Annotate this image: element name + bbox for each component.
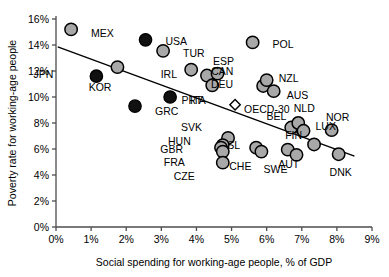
- y-tick-label: 0%: [34, 221, 49, 233]
- y-axis-title: Poverty rate for working-age people: [6, 40, 18, 206]
- data-point-ita: [164, 91, 176, 103]
- point-label-jpn: JPN: [34, 68, 54, 80]
- point-label-swe: SWE: [264, 163, 288, 175]
- x-tick-label: 3%: [154, 233, 169, 245]
- x-tick-label: 8%: [329, 233, 344, 245]
- x-tick-label: 4%: [189, 233, 204, 245]
- data-point-mex: [65, 23, 77, 35]
- point-label-prt: PRT: [181, 94, 202, 106]
- point-label-dnk: DNK: [330, 166, 352, 178]
- data-point-kor: [111, 61, 123, 73]
- point-label-gbr: GBR: [160, 143, 183, 155]
- point-label-sl: SL: [227, 139, 240, 151]
- y-tick-label: 14%: [28, 39, 49, 51]
- y-tick-label: 4%: [34, 169, 49, 181]
- x-tick-label: 0%: [48, 233, 63, 245]
- y-tick-label: 16%: [28, 13, 49, 25]
- data-point-can: [185, 63, 197, 75]
- scatter-chart: 0%2%4%6%8%10%12%14%16%0%1%2%3%4%5%6%7%8%…: [0, 0, 389, 277]
- x-axis-title: Social spending for working-age people, …: [96, 256, 332, 268]
- point-label-fin: FIN: [285, 129, 302, 141]
- point-label-nld: NLD: [294, 102, 315, 114]
- point-label-che: CHE: [229, 160, 251, 172]
- x-tick-label: 7%: [294, 233, 309, 245]
- point-label-fra: FRA: [164, 156, 185, 168]
- point-label-bel: BEL: [266, 110, 286, 122]
- data-point-usa: [139, 34, 151, 46]
- point-label-aus: AUS: [287, 89, 309, 101]
- point-label-svk: SVK: [181, 121, 202, 133]
- data-point-dnk: [332, 148, 344, 160]
- point-label-tur: TUR: [183, 47, 205, 59]
- point-label-kor: KOR: [89, 81, 112, 93]
- point-label-nzl: NZL: [279, 72, 299, 84]
- y-tick-label: 10%: [28, 91, 49, 103]
- data-point-pol: [246, 36, 258, 48]
- data-point-labels: MEXJPNKORUSATURGRCITACANIRLESPPRTDEUNZLA…: [34, 27, 352, 182]
- point-label-grc: GRC: [155, 105, 179, 117]
- point-label-usa: USA: [166, 35, 188, 47]
- x-tick-label: 2%: [119, 233, 134, 245]
- point-label-pol: POL: [273, 38, 294, 50]
- data-point-cze: [217, 156, 229, 168]
- point-label-irl: IRL: [161, 68, 178, 80]
- x-tick-label: 5%: [224, 233, 239, 245]
- y-tick-label: 2%: [34, 195, 49, 207]
- point-label-mex: MEX: [91, 27, 114, 39]
- y-tick-label: 6%: [34, 143, 49, 155]
- x-tick-label: 6%: [259, 233, 274, 245]
- data-point-grc: [129, 100, 141, 112]
- y-tick-label: 8%: [34, 117, 49, 129]
- data-point-aus: [267, 85, 279, 97]
- data-point-fin: [308, 138, 320, 150]
- data-point-nzl: [260, 74, 272, 86]
- point-label-deu: DEU: [211, 78, 233, 90]
- data-point-che: [255, 145, 267, 157]
- point-label-cze: CZE: [174, 170, 195, 182]
- data-point-oecd-30: [230, 100, 240, 110]
- x-tick-label: 1%: [84, 233, 99, 245]
- x-tick-label: 9%: [364, 233, 379, 245]
- point-label-nor: NOR: [326, 111, 350, 123]
- plot-area: 0%2%4%6%8%10%12%14%16%0%1%2%3%4%5%6%7%8%…: [0, 0, 389, 277]
- point-label-esp: ESP: [213, 55, 234, 67]
